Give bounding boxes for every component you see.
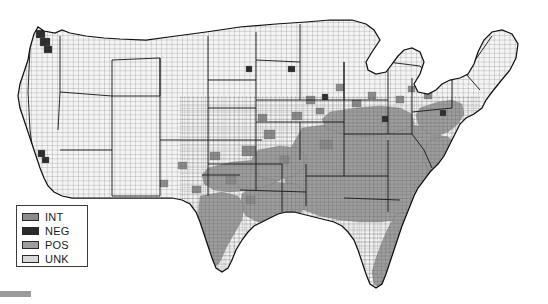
map-legend: INT NEG POS UNK — [16, 205, 88, 267]
bottom-left-artifact-bar — [0, 291, 31, 297]
legend-swatch-neg — [22, 227, 39, 235]
legend-item-neg: NEG — [22, 224, 87, 238]
legend-item-unk: UNK — [22, 252, 87, 266]
map-figure: INT NEG POS UNK — [0, 0, 548, 304]
legend-swatch-pos — [22, 241, 39, 249]
legend-swatch-int — [22, 213, 39, 221]
legend-swatch-unk — [22, 255, 39, 263]
legend-item-int: INT — [22, 210, 87, 224]
legend-label-neg: NEG — [45, 226, 69, 237]
legend-item-pos: POS — [22, 238, 87, 252]
legend-label-int: INT — [45, 212, 63, 223]
legend-label-unk: UNK — [45, 254, 69, 265]
legend-label-pos: POS — [45, 240, 69, 251]
